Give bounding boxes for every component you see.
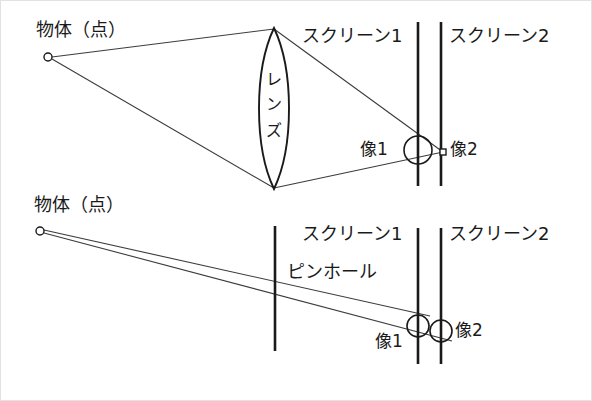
focus-point-marker-top: [440, 149, 446, 155]
object-point-marker-bottom: [36, 227, 44, 235]
label-screen-2-top: スクリーン2: [449, 25, 549, 46]
label-image-2-top: 像2: [450, 139, 478, 159]
label-screen-2-bottom: スクリーン2: [449, 223, 549, 244]
ray-lower-pinhole: [44, 233, 452, 341]
label-image-2-bottom: 像2: [455, 320, 483, 340]
optics-figure: 物体（点） レ ン ズ スクリーン1 スクリーン2 像1 像2: [0, 0, 592, 401]
label-lens-char-2: ン: [266, 95, 282, 114]
label-image-1-top: 像1: [360, 139, 388, 159]
ray-object-to-lens-bottom: [52, 59, 274, 188]
label-lens-char-1: レ: [266, 70, 282, 89]
label-screen-1-bottom: スクリーン1: [302, 223, 402, 244]
top-diagram-lens: 物体（点） レ ン ズ スクリーン1 スクリーン2 像1 像2: [36, 19, 549, 189]
label-image-1-bottom: 像1: [375, 331, 403, 351]
object-point-marker-top: [44, 53, 52, 61]
label-object-bottom: 物体（点）: [34, 194, 124, 215]
label-screen-1-top: スクリーン1: [302, 25, 402, 46]
label-lens-char-3: ズ: [266, 121, 282, 140]
label-pinhole: ピンホール: [287, 261, 377, 282]
bottom-diagram-pinhole: 物体（点） ピンホール スクリーン1 スクリーン2 像1 像2: [34, 194, 549, 364]
label-object-top: 物体（点）: [36, 19, 126, 40]
